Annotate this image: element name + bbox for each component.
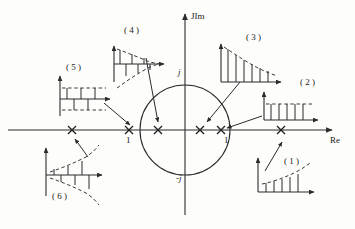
imaginary-negative-tick-label: -j xyxy=(176,174,182,183)
inset-2-stems xyxy=(271,104,303,120)
imaginary-axis-label: JIm xyxy=(191,12,205,21)
inset-3-plot xyxy=(221,44,281,82)
connector-3 xyxy=(207,82,240,122)
inset-2-plot xyxy=(264,92,318,120)
imaginary-positive-tick-label: j xyxy=(178,68,181,77)
connector-1 xyxy=(265,142,282,171)
inset-4-envelope-upper xyxy=(117,49,161,64)
inset-6-envelope-upper xyxy=(50,145,99,172)
connector-2 xyxy=(227,116,262,128)
real-positive-unit-label: 1 xyxy=(224,136,229,145)
inset-3-envelope xyxy=(224,47,277,76)
real-negative-unit-label: 1 xyxy=(126,136,131,145)
real-axis-label: Re xyxy=(330,136,340,145)
inset-5-label: ( 5 ) xyxy=(66,63,81,72)
inset-6-label: ( 6 ) xyxy=(52,192,67,201)
inset-1-envelope xyxy=(262,163,310,184)
inset-4-label: ( 4 ) xyxy=(124,26,139,35)
connector-5 xyxy=(104,103,130,125)
inset-3-stems xyxy=(228,49,268,82)
inset-4-envelope-lower xyxy=(117,64,161,88)
connector-6 xyxy=(75,139,88,157)
z-plane-pole-diagram: JIm j -j Re 1 1 ( 1 ) ( 2 ) ( 3 ) ( 4 ) … xyxy=(0,0,355,229)
main-axes xyxy=(8,14,332,215)
inset-4-stems xyxy=(120,50,150,76)
inset-1-label: ( 1 ) xyxy=(284,157,299,166)
inset-2-label: ( 2 ) xyxy=(300,78,315,87)
inset-4-plot xyxy=(114,46,164,88)
inset-5-plot xyxy=(60,76,110,116)
inset-3-label: ( 3 ) xyxy=(246,33,261,42)
inset-1-stems xyxy=(266,174,298,192)
